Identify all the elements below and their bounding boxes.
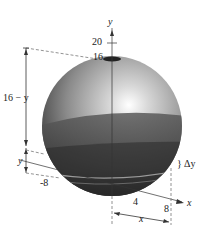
y-tick-16: 16: [93, 51, 103, 62]
x-axis-label: x: [186, 197, 192, 208]
x-tick-4: 4: [133, 196, 138, 207]
delta-y-label: Δy: [184, 158, 195, 169]
x-axis-arrow-icon: [176, 199, 184, 204]
y-tick-20: 20: [92, 36, 102, 47]
y-axis-label: y: [107, 16, 113, 27]
y-axis-arrow-icon: [110, 30, 114, 36]
height-above-label: 16 − y: [3, 92, 29, 103]
radius-label: x: [138, 213, 144, 224]
spherical-tank-diagram: y 20 16 x 4 8 -8 16 − y y } Δy x: [0, 0, 210, 241]
x-tick-neg-8: -8: [40, 177, 48, 188]
delta-y-brace-icon: }: [177, 158, 182, 169]
x-tick-8: 8: [164, 203, 169, 214]
sphere: [30, 56, 200, 210]
height-below-label: y: [17, 155, 23, 166]
